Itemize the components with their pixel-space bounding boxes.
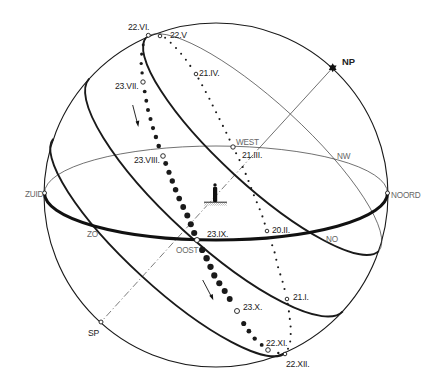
marker-noord [386, 191, 390, 195]
ecliptic-dot-large [176, 196, 182, 202]
ecliptic-dot-small [215, 111, 217, 113]
marker-oost [195, 238, 200, 243]
observer-figure [204, 183, 227, 205]
ecliptic-dot-small [218, 118, 220, 120]
ecliptic-dot-large [180, 204, 186, 210]
ecliptic-dot-small [289, 341, 291, 343]
ecliptic-dot-large [151, 126, 155, 130]
ecliptic-dot-large [191, 230, 197, 236]
ecliptic-dot-small [189, 65, 191, 67]
ecliptic-dot-small [256, 201, 258, 203]
ecliptic-dot-small [283, 288, 285, 290]
ecliptic-dot-large [144, 99, 148, 103]
observer-head [213, 183, 216, 186]
compass-west-label: WEST [236, 138, 259, 147]
marker-23-viii [161, 154, 166, 159]
ecliptic-dot-small [274, 251, 276, 253]
ecliptic-dot-large [188, 221, 194, 227]
ecliptic-dot-small [287, 348, 289, 350]
ecliptic-dot-large [140, 71, 143, 74]
observer-ground-hatch [204, 202, 227, 205]
marker-west [231, 145, 235, 149]
marker-22-v [158, 34, 162, 38]
ecliptic-dot-small [247, 180, 249, 182]
marker-sp [99, 320, 103, 324]
marker-22-xi [266, 348, 271, 353]
marker-21-iv [194, 72, 198, 76]
ecliptic-dot-large [154, 135, 158, 139]
north-pole-label: NP [342, 56, 355, 67]
ecliptic-dot-large [156, 144, 161, 149]
ecliptic-dot-large [146, 108, 150, 112]
ecliptic-dot-small [205, 91, 207, 93]
ecliptic-dot-large [163, 161, 168, 166]
marker-20-ii [265, 229, 269, 233]
ecliptic-dot-small [208, 98, 210, 100]
date-label-20-ii: 20.II. [272, 225, 290, 235]
marker-23-vii [141, 80, 145, 84]
ecliptic-dot-large [203, 255, 209, 261]
ecliptic-dot-large [199, 247, 205, 253]
marker-21-i [285, 297, 289, 301]
marker-22-vi [146, 33, 150, 37]
ecliptic-dot-large [247, 329, 252, 334]
ecliptic-dot-small [235, 152, 237, 154]
ecliptic-dot-large [222, 288, 228, 294]
date-label-23-x: 23.X. [243, 302, 262, 312]
date-label-22-xii: 22.XII. [286, 359, 309, 369]
ecliptic-dot-large [140, 62, 143, 65]
ecliptic-dot-small [170, 42, 172, 44]
motion-arrow-upper [133, 105, 140, 127]
ecliptic-dot-large [260, 343, 264, 347]
ecliptic-dot-large [143, 90, 147, 94]
ecliptic-dot-large [277, 352, 279, 354]
ecliptic-dot-large [184, 213, 190, 219]
ecliptic-dot-small [222, 125, 224, 127]
ecliptic-dot-small [287, 303, 289, 305]
ecliptic-dot-large [253, 336, 257, 340]
ecliptic-dot-small [277, 266, 279, 268]
ecliptic-dot-small [290, 325, 292, 327]
ecliptic-dot-small [290, 333, 292, 335]
date-label-23-viii: 23.VIII. [134, 155, 160, 165]
date-label-23-vii: 23.VII. [115, 81, 138, 91]
compass-zo-label: ZO [87, 230, 98, 239]
ecliptic-dot-small [201, 84, 203, 86]
date-label-21-i: 21.I. [293, 292, 309, 302]
ecliptic-dot-large [227, 296, 233, 302]
date-label-21-iv: 21.IV. [199, 68, 219, 78]
compass-noord-label: NOORD [391, 191, 421, 200]
ecliptic-dot-small [185, 59, 187, 61]
ecliptic-dot-small [259, 208, 261, 210]
ecliptic-dot-small [164, 37, 166, 39]
ecliptic-dot-small [275, 259, 277, 261]
south-pole-label: SP [88, 328, 100, 338]
ecliptic-dot-small [264, 223, 266, 225]
ecliptic-dot-small [175, 47, 177, 49]
ecliptic-dot-small [212, 104, 214, 106]
ecliptic-dot-small [261, 215, 263, 217]
compass-no-label: NO [326, 235, 338, 244]
ecliptic-dot-small [279, 273, 281, 275]
ecliptic-dot-large [140, 53, 143, 56]
ecliptic-dot-small [250, 187, 252, 189]
date-label-23-ix: 23.IX. [207, 229, 228, 239]
ecliptic-dot-small [225, 132, 227, 134]
ecliptic-dot-small [245, 173, 247, 175]
ecliptic-dot-large [211, 272, 217, 278]
ecliptic-dot-large [207, 264, 213, 270]
celestial-axis-upper [262, 68, 333, 145]
ecliptic-dot-small [242, 166, 244, 168]
date-label-22-vi: 22.VI. [128, 22, 149, 32]
motion-arrow-lower [203, 280, 214, 300]
ecliptic-dot-small [282, 281, 284, 283]
compass-oost-label: OOST [176, 246, 199, 255]
ecliptic-dot-small [271, 244, 273, 246]
date-label-21-iii: 21.III. [242, 150, 262, 160]
ecliptic-dot-small [288, 310, 290, 312]
marker-22-xii [283, 352, 287, 356]
date-label-22-v: 22.V [170, 30, 187, 40]
ecliptic-dot-small [289, 318, 291, 320]
ecliptic-dot-small [238, 159, 240, 161]
ecliptic-dot-large [173, 187, 178, 192]
